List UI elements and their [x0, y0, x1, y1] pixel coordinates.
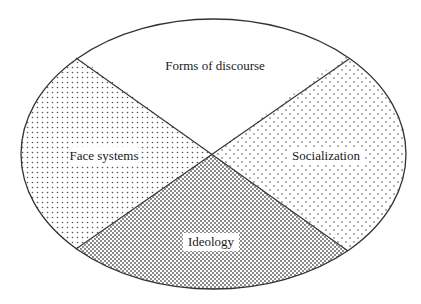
label-ideology: Ideology [188, 234, 235, 249]
label-socialization: Socialization [292, 148, 360, 163]
label-face-systems: Face systems [70, 148, 139, 163]
discourse-diagram: Forms of discourse Face systems Socializ… [0, 0, 421, 304]
label-forms-of-discourse: Forms of discourse [165, 58, 265, 73]
